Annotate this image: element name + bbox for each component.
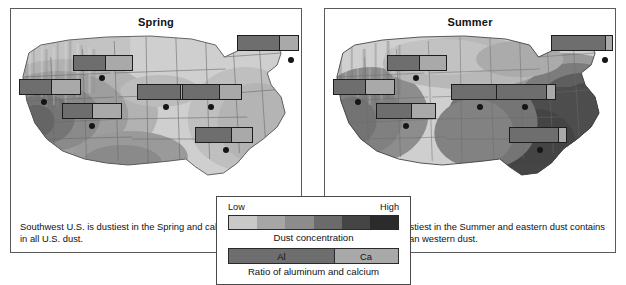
station-bars-desert-southwest <box>376 103 436 119</box>
bar-al-northern-plains <box>74 56 105 70</box>
station-dot-pacific-southwest <box>355 99 361 105</box>
bar-ca-desert-southwest <box>92 104 121 118</box>
bar-ca-pacific-southwest <box>365 80 394 94</box>
bar-ca-northern-plains <box>419 56 446 70</box>
bar-ca-midwest <box>546 85 555 99</box>
station-dot-pacific-southwest <box>41 99 47 105</box>
bar-ca-northern-plains <box>105 56 132 70</box>
station-dot-northern-plains <box>99 75 105 81</box>
station-bars-southeast <box>195 127 253 143</box>
bar-al-pacific-southwest <box>20 80 51 94</box>
bar-al-desert-southwest <box>377 104 411 118</box>
bar-al-central-plains <box>452 85 501 99</box>
bar-ca-southeast <box>558 128 566 142</box>
bar-al-southeast <box>510 128 558 142</box>
station-bars-northern-plains <box>387 55 447 71</box>
station-bars-pacific-southwest <box>333 79 395 95</box>
station-dot-northeast <box>602 57 608 63</box>
legend-al-segment: Al <box>229 249 334 263</box>
station-bars-southeast <box>509 127 567 143</box>
bar-al-northeast <box>552 36 605 50</box>
station-bars-desert-southwest <box>62 103 122 119</box>
legend-al-label: Al <box>277 251 285 262</box>
station-dot-desert-southwest <box>89 123 95 129</box>
bar-al-midwest <box>183 85 219 99</box>
figure-canvas: Spring <box>0 0 626 285</box>
bar-al-midwest <box>497 85 546 99</box>
station-bars-pacific-southwest <box>19 79 81 95</box>
bar-al-southeast <box>196 128 231 142</box>
gradient-step-6 <box>370 216 398 229</box>
gradient-step-4 <box>314 216 342 229</box>
ratio-label: Ratio of aluminum and calcium <box>217 266 410 277</box>
station-bars-northeast <box>551 35 613 51</box>
legend-box: Low High Dust concentration Al Ca Ratio … <box>216 196 411 285</box>
bar-ca-northeast <box>605 36 612 50</box>
station-bars-midwest <box>496 84 556 100</box>
bar-ca-midwest <box>219 85 241 99</box>
bar-ca-pacific-southwest <box>51 80 80 94</box>
station-bars-midwest <box>182 84 242 100</box>
station-dot-desert-southwest <box>403 123 409 129</box>
dust-concentration-gradient <box>228 215 399 230</box>
station-bars-northeast <box>237 35 299 51</box>
gradient-step-5 <box>342 216 370 229</box>
legend-ca-segment: Ca <box>334 249 398 263</box>
gradient-step-2 <box>257 216 285 229</box>
bar-al-pacific-southwest <box>334 80 365 94</box>
station-bars-northern-plains <box>73 55 133 71</box>
bar-al-desert-southwest <box>63 104 92 118</box>
station-dot-northeast <box>288 57 294 63</box>
dust-concentration-label: Dust concentration <box>217 232 410 243</box>
station-dot-southeast <box>537 147 543 153</box>
al-ca-ratio-bar: Al Ca <box>228 248 399 264</box>
bar-ca-desert-southwest <box>411 104 435 118</box>
station-dot-central-plains <box>163 104 169 110</box>
station-dot-central-plains <box>477 104 483 110</box>
bar-al-northeast <box>238 36 279 50</box>
legend-low-label: Low <box>228 202 245 212</box>
station-dot-midwest <box>208 104 214 110</box>
station-dot-northern-plains <box>413 75 419 81</box>
legend-ratio-divider <box>334 249 335 263</box>
gradient-step-3 <box>285 216 313 229</box>
gradient-step-1 <box>229 216 257 229</box>
station-dot-southeast <box>223 147 229 153</box>
legend-ca-label: Ca <box>360 251 372 262</box>
bar-ca-southeast <box>231 128 252 142</box>
legend-scale-endpoints: Low High <box>228 202 399 214</box>
station-dot-midwest <box>522 104 528 110</box>
bar-al-northern-plains <box>388 56 419 70</box>
bar-ca-northeast <box>279 36 298 50</box>
bar-al-central-plains <box>138 85 180 99</box>
legend-high-label: High <box>380 202 399 212</box>
